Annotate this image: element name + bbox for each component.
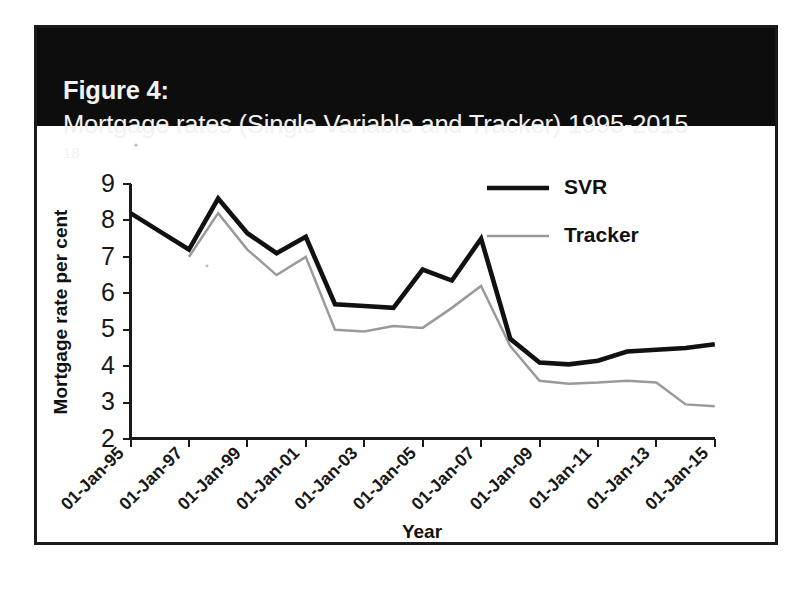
x-tick-label: 01-Jan-09 <box>466 443 537 514</box>
y-tick-label: 8 <box>101 205 115 233</box>
plot-area: 9 8 7 6 5 4 3 2 Mortgage rate per cent <box>37 126 775 545</box>
line-chart: 9 8 7 6 5 4 3 2 Mortgage rate per cent <box>37 126 775 545</box>
figure-container: Figure 4: Mortgage rates (Single Variabl… <box>34 25 778 545</box>
scan-speck <box>134 143 137 146</box>
y-axis-tick-labels: 9 8 7 6 5 4 3 2 <box>101 169 115 452</box>
y-tick-label: 9 <box>101 169 115 197</box>
y-tick-label: 3 <box>101 387 115 415</box>
x-axis-ticks <box>131 439 715 447</box>
x-tick-label: 01-Jan-15 <box>641 443 712 514</box>
y-axis-title: Mortgage rate per cent <box>50 209 71 414</box>
x-axis-tick-labels: 01-Jan-95 01-Jan-97 01-Jan-99 01-Jan-01 … <box>57 443 713 514</box>
y-tick-label: 6 <box>101 278 115 306</box>
x-tick-label: 01-Jan-97 <box>115 443 186 514</box>
x-axis-title: Year <box>402 521 443 542</box>
y-tick-label: 5 <box>101 314 115 342</box>
scan-speck <box>206 265 209 268</box>
chart-legend: SVR Tracker <box>487 175 639 246</box>
figure-number: Figure 4: <box>63 76 169 104</box>
figure-title-banner: Figure 4: Mortgage rates (Single Variabl… <box>37 28 775 126</box>
y-tick-label: 4 <box>101 351 115 379</box>
y-tick-label: 7 <box>101 242 115 270</box>
legend-label-tracker: Tracker <box>564 223 639 246</box>
legend-label-svr: SVR <box>564 175 607 198</box>
